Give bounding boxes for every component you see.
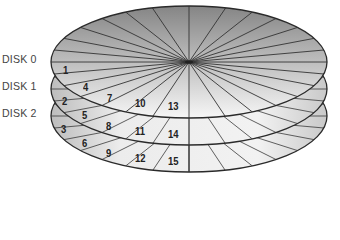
sector-7: 7 <box>107 92 112 104</box>
disk-label-2: DISK 2 <box>2 107 37 119</box>
sector-6: 6 <box>82 137 87 149</box>
sector-4: 4 <box>83 81 88 93</box>
sector-5: 5 <box>82 109 87 121</box>
sector-3: 3 <box>61 123 66 135</box>
spindle-hub <box>185 60 193 64</box>
sector-12: 12 <box>135 152 146 164</box>
sector-2: 2 <box>62 95 67 107</box>
sector-11: 11 <box>135 125 145 137</box>
sector-8: 8 <box>106 120 111 132</box>
sector-15: 15 <box>168 155 179 167</box>
disk-label-0: DISK 0 <box>2 53 37 65</box>
sector-14: 14 <box>168 128 179 140</box>
sector-9: 9 <box>106 147 111 159</box>
sector-13: 13 <box>168 100 179 112</box>
sector-1: 1 <box>63 64 68 76</box>
disk-label-1: DISK 1 <box>2 80 37 92</box>
sector-10: 10 <box>135 97 146 109</box>
